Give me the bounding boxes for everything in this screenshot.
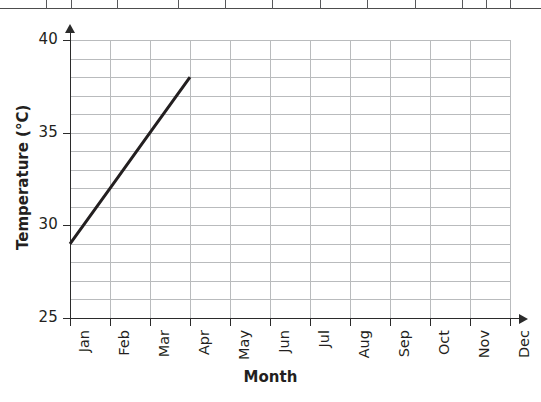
x-axis-tick-label: Jul — [316, 330, 332, 348]
x-axis-tick — [230, 318, 231, 326]
x-axis-tick-label: Jan — [76, 330, 92, 352]
x-axis-tick — [110, 318, 111, 326]
x-axis-tick-label: Aug — [356, 330, 372, 358]
y-axis-tick-label: 30 — [28, 215, 58, 233]
x-axis-tick-label: Feb — [116, 330, 132, 356]
x-axis-tick-label: Apr — [196, 330, 212, 355]
x-axis-tick — [470, 318, 471, 326]
x-axis-tick-label: Nov — [476, 330, 492, 358]
x-axis-tick-label: May — [236, 330, 252, 360]
x-axis-tick — [190, 318, 191, 326]
y-axis-tick-label: 40 — [28, 30, 58, 48]
y-axis-tick — [63, 133, 70, 134]
y-axis-tick — [63, 225, 70, 226]
x-axis-tick — [70, 318, 71, 326]
x-axis-tick-label: Oct — [436, 330, 452, 355]
x-axis-tick-label: Dec — [516, 330, 532, 358]
data-series-line — [70, 77, 190, 244]
x-axis-tick — [310, 318, 311, 326]
x-axis-tick — [150, 318, 151, 326]
x-axis-tick — [350, 318, 351, 326]
x-axis-tick-label: Sep — [396, 330, 412, 357]
x-axis-tick — [510, 318, 511, 326]
x-axis-tick-label: Mar — [156, 330, 172, 357]
y-axis-tick — [63, 40, 70, 41]
y-axis-tick-label: 35 — [28, 123, 58, 141]
line-chart: Temperature (°C) Month 25303540JanFebMar… — [0, 0, 541, 402]
x-axis-tick — [390, 318, 391, 326]
x-axis-tick-label: Jun — [276, 330, 292, 353]
x-axis-tick — [430, 318, 431, 326]
x-axis-tick — [270, 318, 271, 326]
y-axis-tick-label: 25 — [28, 308, 58, 326]
y-axis-tick — [63, 318, 70, 319]
